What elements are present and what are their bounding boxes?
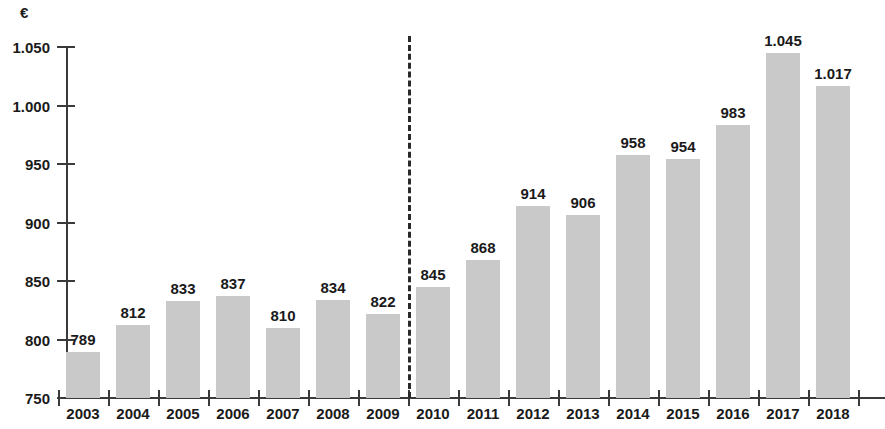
x-axis-label-2017: 2017: [766, 405, 799, 422]
y-tick-label: 800: [0, 331, 50, 348]
bar-value-label-2011: 868: [470, 239, 495, 256]
x-tick-mark: [458, 390, 460, 406]
x-tick-mark: [858, 390, 860, 406]
bar-value-label-2006: 837: [220, 275, 245, 292]
y-tick-label: 850: [0, 273, 50, 290]
x-axis-label-2010: 2010: [416, 405, 449, 422]
x-axis-label-2006: 2006: [216, 405, 249, 422]
plot-area: 7508008509009501.0001.050 78981283383781…: [0, 0, 885, 429]
y-tick-label: 1.050: [0, 39, 50, 56]
bar-value-label-2009: 822: [370, 293, 395, 310]
bar-2003: [66, 352, 100, 398]
bar-value-label-2010: 845: [420, 266, 445, 283]
bar-value-label-2018: 1.017: [814, 65, 852, 82]
x-axis-label-2007: 2007: [266, 405, 299, 422]
y-tick-mark: [57, 280, 75, 282]
bar-2005: [166, 301, 200, 398]
bar-value-label-2007: 810: [270, 307, 295, 324]
bar-2004: [116, 325, 150, 398]
x-tick-mark: [808, 390, 810, 406]
bar-value-label-2017: 1.045: [764, 32, 802, 49]
bar-2007: [266, 328, 300, 398]
x-tick-mark: [758, 390, 760, 406]
y-tick-mark: [57, 105, 75, 107]
bar-2018: [816, 86, 850, 398]
bar-value-label-2005: 833: [170, 280, 195, 297]
bar-2011: [466, 260, 500, 398]
y-tick-label: 1.000: [0, 97, 50, 114]
x-axis-label-2018: 2018: [816, 405, 849, 422]
bar-2009: [366, 314, 400, 398]
bar-2016: [716, 125, 750, 398]
bar-value-label-2014: 958: [620, 134, 645, 151]
x-tick-mark: [208, 390, 210, 406]
x-axis-label-2004: 2004: [116, 405, 149, 422]
bar-2017: [766, 53, 800, 398]
bar-value-label-2003: 789: [70, 331, 95, 348]
x-axis-label-2012: 2012: [516, 405, 549, 422]
bar-value-label-2015: 954: [670, 138, 695, 155]
x-axis-label-2009: 2009: [366, 405, 399, 422]
y-tick-mark: [57, 222, 75, 224]
bar-2013: [566, 215, 600, 398]
x-tick-mark: [658, 390, 660, 406]
x-axis-label-2013: 2013: [566, 405, 599, 422]
x-axis-label-2005: 2005: [166, 405, 199, 422]
bar-value-label-2012: 914: [520, 185, 545, 202]
x-axis-label-2011: 2011: [467, 405, 500, 422]
x-axis-label-2016: 2016: [716, 405, 749, 422]
x-tick-mark: [308, 390, 310, 406]
bar-value-label-2013: 906: [570, 194, 595, 211]
series-break-divider: [408, 36, 411, 398]
x-tick-mark: [558, 390, 560, 406]
bar-2008: [316, 300, 350, 398]
x-tick-mark: [508, 390, 510, 406]
y-tick-label: 950: [0, 156, 50, 173]
x-tick-mark: [608, 390, 610, 406]
bar-2010: [416, 287, 450, 398]
y-tick-label: 750: [0, 390, 50, 407]
x-axis-label-2003: 2003: [66, 405, 99, 422]
bar-value-label-2008: 834: [320, 279, 345, 296]
x-axis-label-2008: 2008: [316, 405, 349, 422]
bar-2015: [666, 159, 700, 398]
y-tick-mark: [57, 46, 75, 48]
y-tick-mark: [57, 163, 75, 165]
x-tick-mark: [358, 390, 360, 406]
x-tick-mark: [258, 390, 260, 406]
x-tick-mark: [708, 390, 710, 406]
y-tick-label: 900: [0, 214, 50, 231]
bar-2014: [616, 155, 650, 398]
x-tick-mark: [108, 390, 110, 406]
x-tick-mark: [58, 390, 60, 406]
x-tick-mark: [158, 390, 160, 406]
bar-chart: € 7508008509009501.0001.050 789812833837…: [0, 0, 885, 429]
bar-2012: [516, 206, 550, 398]
bar-value-label-2004: 812: [120, 304, 145, 321]
bar-2006: [216, 296, 250, 398]
x-axis-label-2015: 2015: [666, 405, 699, 422]
bar-value-label-2016: 983: [720, 104, 745, 121]
x-axis-label-2014: 2014: [616, 405, 649, 422]
